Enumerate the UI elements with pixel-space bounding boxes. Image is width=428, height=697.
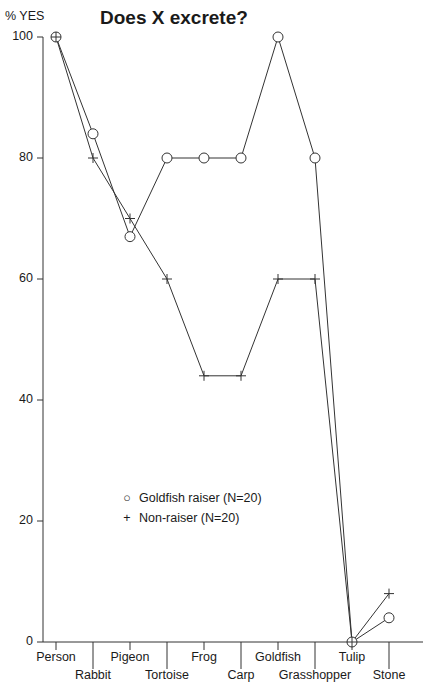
circle-marker-icon	[88, 129, 98, 139]
plus-marker-icon: +	[120, 508, 134, 528]
series-markers	[51, 32, 394, 647]
circle-marker-icon	[384, 613, 394, 623]
circle-marker-icon: ○	[120, 488, 134, 508]
circle-marker-icon	[162, 153, 172, 163]
x-tick-label-frog: Frog	[191, 650, 217, 664]
y-tick-label: 40	[3, 392, 33, 406]
series-line-plus	[56, 37, 389, 642]
legend-label: Goldfish raiser (N=20)	[139, 488, 262, 508]
y-tick-label: 80	[3, 150, 33, 164]
circle-marker-icon	[199, 153, 209, 163]
legend-label: Non-raiser (N=20)	[139, 508, 239, 528]
x-tick-label-pigeon: Pigeon	[111, 650, 150, 664]
legend-item-goldfish-raiser: ○ Goldfish raiser (N=20)	[120, 488, 262, 508]
x-tick-label-tortoise: Tortoise	[145, 668, 189, 682]
circle-marker-icon	[273, 32, 283, 42]
x-tick-label-person: Person	[36, 650, 76, 664]
legend-item-non-raiser: + Non-raiser (N=20)	[120, 508, 262, 528]
x-tick-label-tulip: Tulip	[339, 650, 366, 664]
circle-marker-icon	[125, 232, 135, 242]
legend: ○ Goldfish raiser (N=20) + Non-raiser (N…	[120, 488, 262, 528]
line-chart-plot	[0, 0, 428, 697]
x-tick-label-grasshopper: Grasshopper	[279, 668, 351, 682]
y-tick-label: 20	[3, 513, 33, 527]
y-tick-label: 0	[3, 634, 33, 648]
y-tick-label: 100	[3, 29, 33, 43]
x-tick-label-rabbit: Rabbit	[75, 668, 111, 682]
series-lines	[56, 37, 389, 642]
y-tick-label: 60	[3, 271, 33, 285]
series-line-circle	[56, 37, 389, 642]
x-tick-label-stone: Stone	[373, 668, 406, 682]
circle-marker-icon	[310, 153, 320, 163]
circle-marker-icon	[236, 153, 246, 163]
x-tick-label-carp: Carp	[227, 668, 254, 682]
x-tick-label-goldfish: Goldfish	[255, 650, 301, 664]
